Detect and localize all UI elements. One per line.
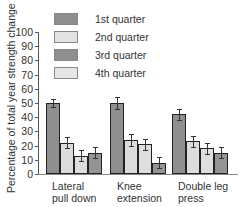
y-tick-label: 90 xyxy=(13,41,33,51)
error-bar xyxy=(81,150,82,161)
legend-label: 2nd quarter xyxy=(95,31,149,43)
error-bar xyxy=(95,147,96,158)
y-tick-label: 0 xyxy=(13,169,33,179)
error-cap xyxy=(51,99,56,100)
legend-swatch xyxy=(54,67,78,79)
x-label-double-leg-press: Double leg press xyxy=(178,180,228,204)
y-tick xyxy=(35,117,38,118)
error-bar xyxy=(179,109,180,120)
error-cap xyxy=(219,158,224,159)
error-cap xyxy=(65,148,70,149)
error-cap xyxy=(93,147,98,148)
error-cap xyxy=(115,109,120,110)
error-cap xyxy=(177,109,182,110)
y-tick-label: 50 xyxy=(13,98,33,108)
error-cap xyxy=(79,161,84,162)
y-tick xyxy=(35,32,38,33)
error-cap xyxy=(177,120,182,121)
error-bar xyxy=(193,136,194,147)
y-tick-label: 80 xyxy=(13,55,33,65)
error-bar xyxy=(221,147,222,158)
error-cap xyxy=(205,154,210,155)
error-bar xyxy=(159,157,160,168)
y-axis xyxy=(38,32,39,174)
y-tick-label: 100 xyxy=(13,27,33,37)
y-tick-label: 40 xyxy=(13,112,33,122)
error-bar xyxy=(131,134,132,145)
error-cap xyxy=(191,147,196,148)
error-cap xyxy=(115,97,120,98)
error-cap xyxy=(219,147,224,148)
y-tick xyxy=(35,103,38,104)
x-label-lateral-pull-down: Lateral pull down xyxy=(52,180,96,204)
error-cap xyxy=(143,139,148,140)
error-cap xyxy=(129,146,134,147)
y-tick xyxy=(35,89,38,90)
error-cap xyxy=(129,134,134,135)
y-tick xyxy=(35,160,38,161)
legend-swatch xyxy=(54,49,78,61)
bar xyxy=(172,114,186,174)
error-bar xyxy=(207,143,208,154)
error-cap xyxy=(51,107,56,108)
y-tick-label: 10 xyxy=(13,155,33,165)
y-tick xyxy=(35,146,38,147)
error-cap xyxy=(65,137,70,138)
error-cap xyxy=(143,150,148,151)
error-bar xyxy=(145,139,146,150)
bar xyxy=(46,103,60,174)
legend-label: 4th quarter xyxy=(95,67,146,79)
x-axis xyxy=(38,174,238,175)
error-bar xyxy=(67,137,68,148)
error-cap xyxy=(191,136,196,137)
error-bar xyxy=(53,99,54,108)
error-cap xyxy=(79,150,84,151)
x-label-knee-extension: Knee extension xyxy=(117,180,162,204)
error-bar xyxy=(117,97,118,108)
legend-label: 1st quarter xyxy=(95,13,145,25)
legend-label: 3rd quarter xyxy=(95,49,146,61)
y-tick-label: 30 xyxy=(13,126,33,136)
y-tick xyxy=(35,131,38,132)
y-tick-label: 60 xyxy=(13,84,33,94)
bar xyxy=(110,103,124,174)
y-tick xyxy=(35,46,38,47)
y-tick xyxy=(35,174,38,175)
error-cap xyxy=(93,158,98,159)
error-cap xyxy=(157,168,162,169)
legend-swatch xyxy=(54,13,78,25)
legend-swatch xyxy=(54,31,78,43)
y-tick xyxy=(35,60,38,61)
error-cap xyxy=(205,143,210,144)
y-tick-label: 20 xyxy=(13,141,33,151)
error-cap xyxy=(157,157,162,158)
y-tick xyxy=(35,75,38,76)
y-tick-label: 70 xyxy=(13,70,33,80)
